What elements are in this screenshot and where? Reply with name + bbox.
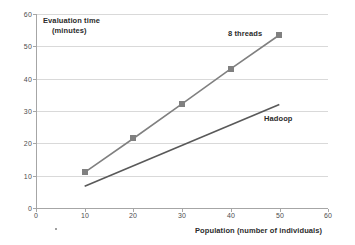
x-axis-title: Population (number of individuals) xyxy=(195,226,322,235)
series-lines xyxy=(0,0,355,245)
data-point-marker xyxy=(82,169,88,175)
series-line-hadoop xyxy=(85,105,280,187)
series-label-8-threads: 8 threads xyxy=(228,29,262,38)
data-point-marker xyxy=(228,66,234,72)
series-label-hadoop: Hadoop xyxy=(264,114,293,123)
y-axis-title-line1: Evaluation time xyxy=(43,16,100,25)
y-axis-title: Evaluation time (minutes) xyxy=(43,16,100,36)
data-point-marker xyxy=(130,135,136,141)
y-axis-title-line2: (minutes) xyxy=(43,26,100,36)
evaluation-time-line-chart: 60 50 40 30 20 10 0 0 10 20 30 40 50 60 … xyxy=(0,0,355,245)
stray-dot-artifact xyxy=(55,228,57,230)
data-point-marker xyxy=(179,101,185,107)
data-point-marker xyxy=(276,32,282,38)
